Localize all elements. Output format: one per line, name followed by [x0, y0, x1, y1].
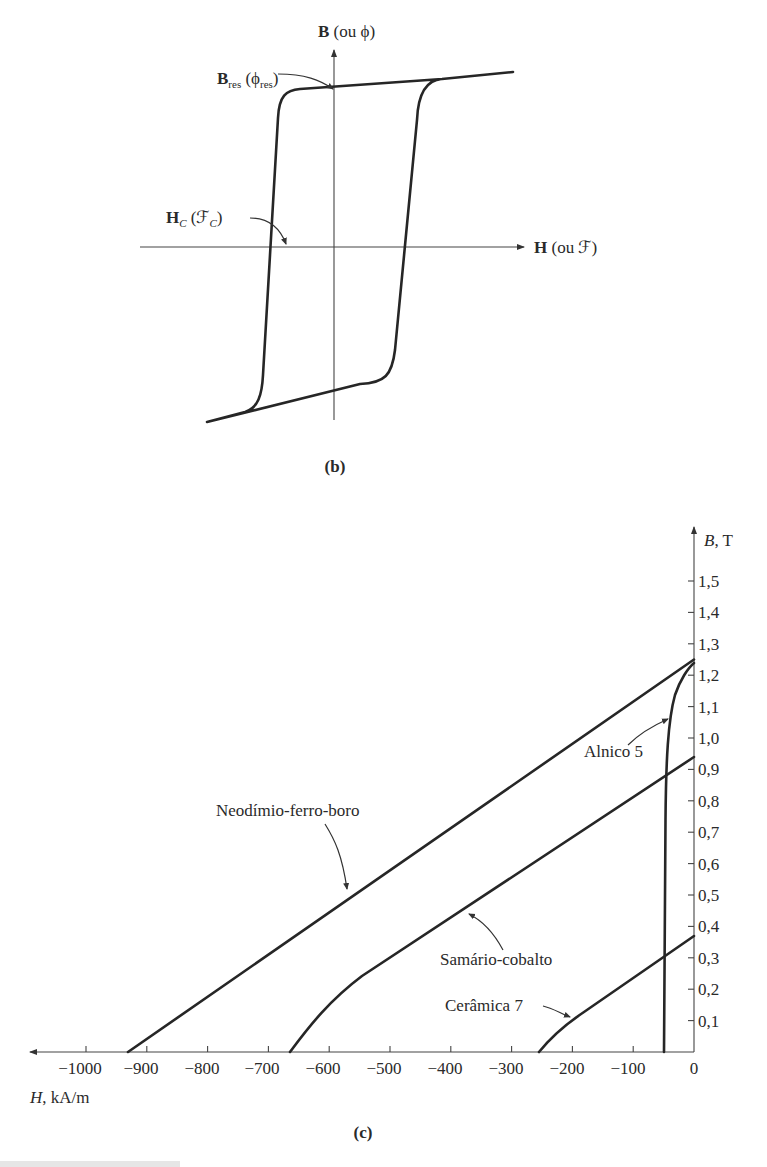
hysteresis-figure: Bres (ϕres) HC (ℱC) B (ou ϕ) H (ou ℱ) (b… — [140, 22, 597, 476]
svg-text:−600: −600 — [305, 1059, 340, 1078]
svg-text:0,7: 0,7 — [698, 823, 720, 842]
b-x-axis-label: H (ou ℱ) — [534, 238, 597, 257]
curve-ceramica-7 — [539, 936, 694, 1052]
svg-text:1,5: 1,5 — [698, 572, 719, 591]
svg-text:0,3: 0,3 — [698, 949, 719, 968]
svg-text:0,2: 0,2 — [698, 980, 719, 999]
label-samario: Samário-cobalto — [440, 950, 552, 969]
label-alnico: Alnico 5 — [584, 742, 643, 761]
svg-text:−400: −400 — [427, 1059, 462, 1078]
demagnetization-figure: 0,1 0,2 0,3 0,4 0,5 0,6 0,7 0,8 0,9 1,0 … — [29, 527, 734, 1142]
label-ceramica: Cerâmica 7 — [445, 996, 523, 1015]
samario-pointer-arrow — [469, 914, 503, 950]
svg-text:0,4: 0,4 — [698, 917, 720, 936]
svg-text:1,1: 1,1 — [698, 698, 719, 717]
svg-text:0: 0 — [690, 1059, 699, 1078]
svg-text:−900: −900 — [123, 1059, 158, 1078]
c-y-axis-label: BB, T, T — [704, 531, 734, 550]
svg-text:−1000: −1000 — [58, 1059, 102, 1078]
svg-text:1,0: 1,0 — [698, 729, 719, 748]
svg-text:−800: −800 — [184, 1059, 219, 1078]
neodimio-pointer-arrow — [325, 824, 347, 889]
bres-label: Bres (ϕres) — [217, 69, 279, 90]
b-y-axis-label: B (ou ϕ) — [318, 22, 375, 41]
svg-text:−700: −700 — [244, 1059, 279, 1078]
ceramica-pointer-arrow — [543, 1006, 570, 1017]
c-y-ticks — [688, 581, 694, 1021]
svg-text:1,4: 1,4 — [698, 603, 720, 622]
c-x-axis-label: H, kA/mH, kA/m — [29, 1088, 90, 1107]
svg-text:0,9: 0,9 — [698, 760, 719, 779]
b-caption: (b) — [325, 457, 346, 476]
svg-text:0,8: 0,8 — [698, 792, 719, 811]
c-caption: (c) — [354, 1123, 373, 1142]
c-x-tick-labels: −1000 −900 −800 −700 −600 −500 −400 −300… — [58, 1059, 698, 1078]
curve-alnico-5 — [664, 663, 694, 1052]
svg-text:1,3: 1,3 — [698, 635, 719, 654]
svg-text:−300: −300 — [488, 1059, 523, 1078]
svg-text:1,2: 1,2 — [698, 666, 719, 685]
svg-text:0,5: 0,5 — [698, 886, 719, 905]
hc-pointer-arrow — [250, 218, 286, 244]
cropped-caption-fragment — [0, 1161, 180, 1167]
label-neodimio: Neodímio-ferro-boro — [216, 801, 360, 820]
svg-text:−500: −500 — [366, 1059, 401, 1078]
svg-text:−100: −100 — [610, 1059, 645, 1078]
figure-canvas: Bres (ϕres) HC (ℱC) B (ou ϕ) H (ou ℱ) (b… — [0, 0, 767, 1167]
svg-text:0,6: 0,6 — [698, 855, 719, 874]
svg-text:−200: −200 — [549, 1059, 584, 1078]
c-x-ticks — [86, 1046, 633, 1052]
svg-text:0,1: 0,1 — [698, 1012, 719, 1031]
c-y-tick-labels: 0,1 0,2 0,3 0,4 0,5 0,6 0,7 0,8 0,9 1,0 … — [698, 572, 720, 1031]
hc-label: HC (ℱC) — [166, 208, 223, 229]
